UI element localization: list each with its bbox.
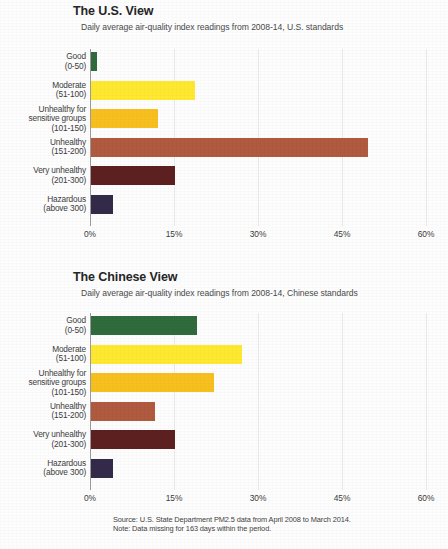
category-label: Hazardous(above 300) xyxy=(4,459,86,478)
bar xyxy=(91,81,195,100)
category-label-range: (101-150) xyxy=(4,124,86,134)
category-label: Unhealthy forsensitive groups(101-150) xyxy=(4,369,86,398)
x-tick-label-0pct: 0% xyxy=(70,493,110,503)
gridline-15pct xyxy=(174,313,175,490)
chart-panel-chinese-view: The Chinese View Daily average air-quali… xyxy=(0,266,448,549)
x-tick-label-30pct: 30% xyxy=(238,493,278,503)
gridline-30pct xyxy=(258,313,259,490)
category-label: Moderate(51-100) xyxy=(4,345,86,364)
x-tick-label-15pct: 15% xyxy=(154,229,194,239)
chart-title-us-view: The U.S. View xyxy=(73,4,153,18)
x-tick-label-30pct: 30% xyxy=(238,229,278,239)
category-label: Unhealthy(151-200) xyxy=(4,138,86,157)
x-tick-label-45pct: 45% xyxy=(322,229,362,239)
bar xyxy=(91,430,175,449)
category-label-range: (51-100) xyxy=(4,90,86,100)
bar xyxy=(91,195,113,214)
bar xyxy=(91,402,155,421)
category-label: Hazardous(above 300) xyxy=(4,195,86,214)
chart-title-chinese-view: The Chinese View xyxy=(73,270,177,284)
bar xyxy=(91,138,368,157)
category-label: Very unhealthy(201-300) xyxy=(4,430,86,449)
category-label-range: (above 300) xyxy=(4,204,86,214)
category-label: Good(0-50) xyxy=(4,52,86,71)
category-label-range: (101-150) xyxy=(4,388,86,398)
x-tick-label-60pct: 60% xyxy=(406,229,446,239)
category-label-range: (0-50) xyxy=(4,326,86,336)
gridline-45pct xyxy=(342,313,343,490)
note-line: Note: Data missing for 163 days within t… xyxy=(113,524,271,533)
chart-subtitle-chinese-view: Daily average air-quality index readings… xyxy=(81,288,358,298)
category-label-range: (201-300) xyxy=(4,176,86,186)
category-label: Very unhealthy(201-300) xyxy=(4,166,86,185)
gridline-60pct xyxy=(426,313,427,490)
x-tick-label-0pct: 0% xyxy=(70,229,110,239)
bar xyxy=(91,109,158,128)
category-label-range: (151-200) xyxy=(4,147,86,157)
gridline-60pct xyxy=(426,49,427,226)
bar xyxy=(91,316,197,335)
chart-subtitle-us-view: Daily average air-quality index readings… xyxy=(81,22,343,32)
category-label: Good(0-50) xyxy=(4,316,86,335)
category-label-range: (151-200) xyxy=(4,411,86,421)
category-label-range: (above 300) xyxy=(4,468,86,478)
bar xyxy=(91,166,175,185)
category-label: Moderate(51-100) xyxy=(4,81,86,100)
source-line: Source: U.S. State Department PM2.5 data… xyxy=(113,515,351,524)
bar xyxy=(91,459,113,478)
chart-panel-us-view: The U.S. View Daily average air-quality … xyxy=(0,0,448,255)
bar xyxy=(91,52,97,71)
bar xyxy=(91,345,242,364)
bar xyxy=(91,373,214,392)
category-label-range: (51-100) xyxy=(4,354,86,364)
x-tick-label-60pct: 60% xyxy=(406,493,446,503)
category-label: Unhealthy forsensitive groups(101-150) xyxy=(4,105,86,134)
category-label-range: (201-300) xyxy=(4,440,86,450)
category-label-range: (0-50) xyxy=(4,62,86,72)
x-tick-label-45pct: 45% xyxy=(322,493,362,503)
category-label: Unhealthy(151-200) xyxy=(4,402,86,421)
x-tick-label-15pct: 15% xyxy=(154,493,194,503)
